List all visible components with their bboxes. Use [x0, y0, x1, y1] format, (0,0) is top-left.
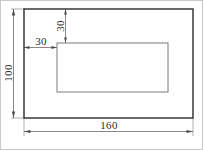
dimension-label-width: 160: [100, 119, 118, 131]
technical-drawing-canvas: 100 160 30 30: [0, 0, 203, 150]
dimension-label-offset-left: 30: [35, 35, 47, 47]
dimension-label-offset-top: 30: [54, 20, 66, 32]
engineering-drawing: 100 160 30 30: [0, 0, 203, 150]
dimension-label-height: 100: [2, 64, 14, 82]
